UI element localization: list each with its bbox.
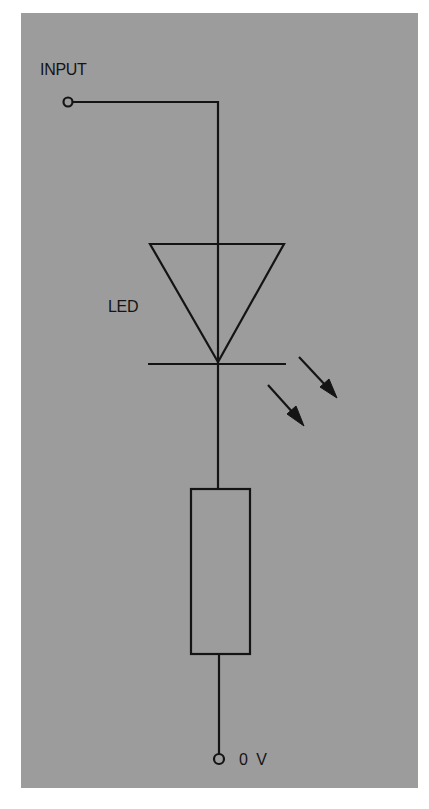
input-label: INPUT (40, 61, 87, 79)
resistor-icon (191, 489, 250, 654)
ground-label: 0 V (239, 751, 269, 769)
circuit-schematic (0, 0, 429, 809)
led-label: LED (108, 298, 138, 316)
input-terminal-icon (64, 98, 73, 107)
input-wire (73, 102, 219, 489)
ground-terminal-icon (214, 754, 224, 764)
light-emission-arrows-icon (268, 357, 337, 426)
